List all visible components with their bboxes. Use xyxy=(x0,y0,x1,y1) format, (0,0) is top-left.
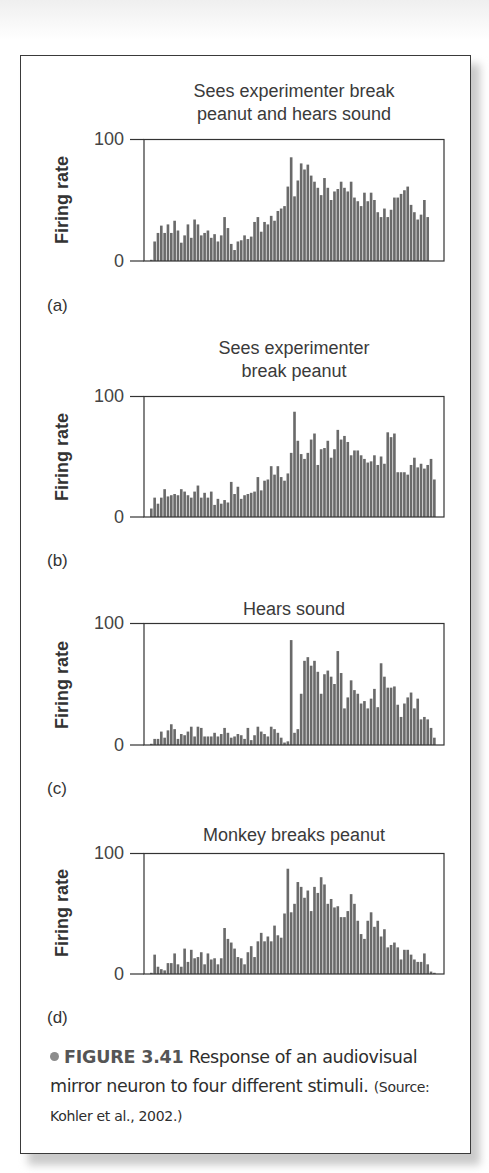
y-tick-0-b: 0 xyxy=(64,508,124,526)
y-tick-0-c: 0 xyxy=(64,736,124,754)
y-axis-label-c: Firing rate xyxy=(52,641,73,729)
histogram-b xyxy=(128,396,446,518)
y-axis-label-a: Firing rate xyxy=(52,156,73,244)
chart-title-a-line2: peanut and hears sound xyxy=(144,103,444,126)
chart-title-a: Sees experimenter break peanut and hears… xyxy=(144,80,444,126)
bullet-icon xyxy=(50,1052,59,1061)
histogram-d xyxy=(128,853,446,975)
figure-caption: FIGURE 3.41 Response of an audiovisual m… xyxy=(50,1043,460,1131)
chart-title-d: Monkey breaks peanut xyxy=(144,824,444,847)
y-tick-100-a: 100 xyxy=(64,130,124,148)
chart-title-c-line1: Hears sound xyxy=(144,598,444,621)
y-tick-100-b: 100 xyxy=(64,387,124,405)
panel-label-a: (a) xyxy=(47,296,68,316)
y-tick-0-a: 0 xyxy=(64,252,124,270)
chart-title-c: Hears sound xyxy=(144,598,444,621)
y-tick-100-c: 100 xyxy=(64,614,124,632)
chart-title-a-line1: Sees experimenter break xyxy=(144,80,444,103)
histogram-c xyxy=(128,623,446,746)
y-tick-100-d: 100 xyxy=(64,844,124,862)
panel-label-d: (d) xyxy=(47,1008,68,1028)
y-axis-label-b: Firing rate xyxy=(52,413,73,501)
y-axis-label-d: Firing rate xyxy=(52,869,73,957)
page-background-fade xyxy=(0,0,489,40)
panel-label-b: (b) xyxy=(47,551,68,571)
chart-title-d-line1: Monkey breaks peanut xyxy=(144,824,444,847)
chart-title-b: Sees experimenter break peanut xyxy=(144,337,444,383)
chart-title-b-line2: break peanut xyxy=(144,360,444,383)
histogram-a xyxy=(128,139,446,262)
chart-title-b-line1: Sees experimenter xyxy=(144,337,444,360)
y-tick-0-d: 0 xyxy=(64,965,124,983)
figure-number: FIGURE 3.41 xyxy=(64,1047,184,1067)
panel-label-c: (c) xyxy=(47,779,67,799)
